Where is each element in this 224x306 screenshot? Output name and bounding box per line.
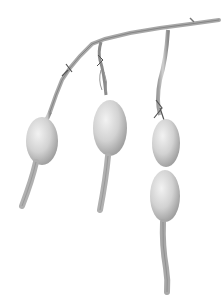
botanical-photo bbox=[0, 0, 224, 306]
branch bbox=[50, 18, 219, 112]
seed-pod-middle bbox=[93, 42, 127, 210]
seed-pod-right bbox=[150, 30, 180, 292]
seed-pods-illustration bbox=[0, 0, 224, 306]
seed-pod-left bbox=[22, 112, 58, 206]
